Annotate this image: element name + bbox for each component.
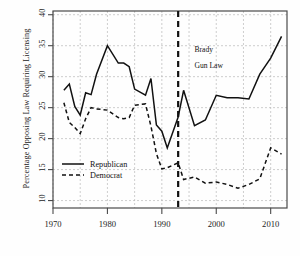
y-tick-label: 25 [38,101,47,109]
x-gridlines [53,11,271,208]
y-tick-label: 30 [38,70,47,78]
x-tick-label: 1980 [99,219,116,229]
x-axis-ticks: 19701980199020002010 [44,208,279,229]
y-tick-label: 35 [38,40,47,48]
x-tick-label: 1970 [44,219,61,229]
y-tick-label: 40 [38,9,47,17]
y-tick-label: 20 [38,132,47,140]
y-gridlines [53,15,287,201]
y-tick-label: 10 [38,194,47,202]
x-tick-label: 2000 [208,219,225,229]
x-tick-label: 2010 [262,219,279,229]
y-tick-label: 15 [38,163,47,171]
legend-label-republican: Republican [90,160,127,169]
chart-figure: Percentage Opposing Law Requiring Licens… [0,0,300,256]
chart-plot-area: 10152025303540 19701980199020002010 Brad… [0,0,300,256]
series-line-republican [64,36,282,148]
plot-frame [53,11,287,208]
chart-legend: Republican Democrat [62,160,127,180]
brady-gun-law-label-line1: Brady [194,45,213,54]
y-axis-ticks: 10152025303540 [38,9,53,203]
legend-label-democrat: Democrat [90,171,123,180]
brady-gun-law-label-line2: Gun Law [194,61,223,70]
x-tick-label: 1990 [153,219,170,229]
